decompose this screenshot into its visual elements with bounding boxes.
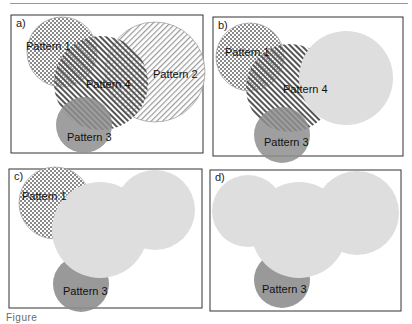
label-pattern-4: Pattern 4 xyxy=(283,83,328,95)
panel-c-label: c) xyxy=(14,170,23,182)
label-pattern-2: Pattern 2 xyxy=(153,68,198,80)
label-pattern-3: Pattern 3 xyxy=(264,136,309,148)
label-pattern-3: Pattern 3 xyxy=(63,285,108,297)
label-pattern-1: Pattern 1 xyxy=(22,190,67,202)
figure-caption: Figure xyxy=(6,312,37,323)
panel-d-label: d) xyxy=(215,171,225,183)
panel-c: c) Pattern 1 Pattern 3 xyxy=(9,167,202,312)
circle-pattern-3 xyxy=(254,107,310,163)
panel-b: b) Pattern 1 Pattern 4 Pattern 3 xyxy=(213,17,403,163)
panel-b-label: b) xyxy=(218,19,228,31)
figure-panels: a) Pattern 1 Pattern 2 Pattern 4 Pattern… xyxy=(0,0,412,324)
merged-region xyxy=(299,31,393,125)
label-pattern-3: Pattern 3 xyxy=(67,131,112,143)
label-pattern-1: Pattern 1 xyxy=(225,46,270,58)
circle-pattern-3 xyxy=(56,97,112,153)
label-pattern-4: Pattern 4 xyxy=(86,78,131,90)
panel-d: d) Pattern 3 xyxy=(210,170,401,311)
label-pattern-3: Pattern 3 xyxy=(262,283,307,295)
panel-a-label: a) xyxy=(16,17,26,29)
label-pattern-1: Pattern 1 xyxy=(26,40,71,52)
panel-a: a) Pattern 1 Pattern 2 Pattern 4 Pattern… xyxy=(11,15,205,153)
